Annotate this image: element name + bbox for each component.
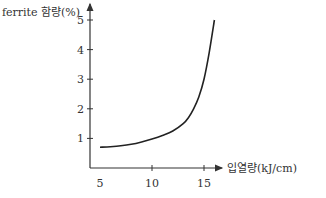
y-tick-label: 1 <box>77 132 84 145</box>
ferrite-curve <box>100 20 214 147</box>
y-axis-label: ferrite 함량(%) <box>2 6 80 19</box>
y-tick-label: 3 <box>77 73 84 86</box>
y-tick-label: 4 <box>77 44 84 57</box>
y-tick-label: 2 <box>77 103 84 116</box>
x-axis-label: 입열량(kJ/cm) <box>227 162 297 175</box>
x-tick-label: 15 <box>197 177 211 190</box>
ticks: 1234551015 <box>77 14 211 190</box>
x-tick-label: 5 <box>97 177 104 190</box>
x-tick-label: 10 <box>145 177 159 190</box>
ferrite-content-chart: 1234551015 ferrite 함량(%) 입열량(kJ/cm) <box>0 0 326 198</box>
